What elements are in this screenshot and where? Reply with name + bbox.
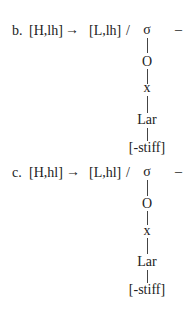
arrow-icon: →	[66, 165, 80, 179]
tree-node-onset: O	[142, 55, 152, 69]
tree-line	[147, 238, 148, 254]
tree-node-onset: O	[142, 197, 152, 211]
rule-input: [H,hl]	[29, 166, 63, 180]
focus-dash: –	[175, 23, 182, 37]
tree-line	[147, 96, 148, 113]
tree-node-feature: [-stiff]	[129, 283, 165, 297]
tree-node-lar: Lar	[137, 255, 156, 269]
tree-node-sigma: σ	[143, 23, 151, 37]
environment-slash: /	[126, 24, 130, 38]
tree-line	[147, 38, 148, 53]
tree-line	[147, 180, 148, 196]
rule-output: [L,hl]	[89, 166, 121, 180]
tree-node-feature: [-stiff]	[129, 141, 165, 155]
rule-output: [L,lh]	[89, 24, 121, 38]
rule-input: [H,lh]	[29, 24, 63, 38]
tree-node-lar: Lar	[137, 113, 156, 127]
environment-slash: /	[126, 166, 130, 180]
arrow-icon: →	[65, 23, 79, 37]
tree-node-x: x	[144, 224, 151, 238]
rule-label: c.	[12, 166, 22, 180]
rule-label: b.	[12, 24, 23, 38]
tree-node-x: x	[144, 81, 151, 95]
tree-node-sigma: σ	[143, 165, 151, 179]
focus-dash: –	[175, 165, 182, 179]
